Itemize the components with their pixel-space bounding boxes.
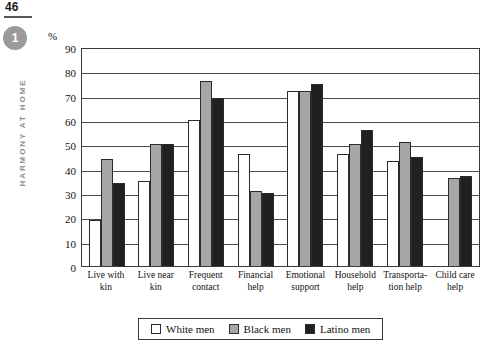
page-number: 46 — [5, 0, 18, 14]
bar — [399, 142, 411, 266]
bar-group-bars — [380, 49, 430, 266]
legend-item: Black men — [229, 323, 291, 335]
plot-area: 0102030405060708090 — [81, 48, 480, 267]
x-axis-tick-label: Live nearkin — [131, 270, 181, 293]
white-swatch — [151, 324, 161, 334]
bar — [138, 181, 150, 266]
bar-group — [281, 49, 331, 266]
bar-group — [231, 49, 281, 266]
bar — [337, 154, 349, 266]
bar-group — [181, 49, 231, 266]
page-rule-divider — [4, 16, 32, 18]
legend-item-label: Latino men — [320, 323, 370, 335]
bar-group — [132, 49, 182, 266]
bar-group-bars — [330, 49, 380, 266]
x-axis-tick-label: Financialhelp — [231, 270, 281, 293]
chapter-number-badge: 1 — [3, 26, 27, 50]
bar-group — [82, 49, 132, 266]
bar — [287, 91, 299, 266]
bar — [150, 144, 162, 266]
bar-group-bars — [181, 49, 231, 266]
bar — [250, 191, 262, 266]
gray-swatch — [229, 324, 239, 334]
x-axis-labels: Live withkinLive nearkinFrequentcontactF… — [81, 270, 480, 293]
bar — [411, 157, 423, 267]
legend-item: White men — [151, 323, 215, 335]
y-axis-tick-label: 0 — [71, 262, 77, 274]
x-axis-tick-label: Householdhelp — [330, 270, 380, 293]
bar — [262, 193, 274, 266]
bar — [162, 144, 174, 266]
bar — [361, 130, 373, 266]
bar — [387, 161, 399, 266]
x-axis-tick-label: Live withkin — [81, 270, 131, 293]
bar — [311, 84, 323, 267]
chart-legend: White menBlack menLatino men — [138, 318, 383, 340]
legend-item-label: White men — [166, 323, 215, 335]
bar — [200, 81, 212, 266]
bar — [238, 154, 250, 266]
chart-page: 46 1 HARMONY AT HOME % 01020304050607080… — [0, 0, 495, 352]
legend-item: Latino men — [305, 323, 370, 335]
bar-group-bars — [82, 49, 132, 266]
x-axis-tick-label: Emotionalsupport — [281, 270, 331, 293]
bar-group — [380, 49, 430, 266]
y-axis-tick-label: 30 — [65, 189, 76, 201]
bar — [89, 220, 101, 266]
bar-group-bars — [281, 49, 331, 266]
bar — [299, 91, 311, 266]
y-axis-tick-label: 40 — [65, 165, 76, 177]
x-axis-tick-label: Transporta-tion help — [380, 270, 430, 293]
bar-group-bars — [231, 49, 281, 266]
y-axis-tick-label: 20 — [65, 213, 76, 225]
bar — [448, 178, 460, 266]
bar-group — [429, 49, 479, 266]
black-swatch — [305, 324, 315, 334]
bar — [188, 120, 200, 266]
bar-group-bars — [132, 49, 182, 266]
bar — [113, 183, 125, 266]
y-axis-tick-label: 50 — [65, 140, 76, 152]
y-axis-tick-label: 10 — [65, 238, 76, 250]
bar-group-bars — [429, 49, 479, 266]
y-axis-tick-label: 70 — [65, 92, 76, 104]
bar — [101, 159, 113, 266]
bar-chart: % 0102030405060708090 Live withkinLive n… — [40, 30, 490, 280]
legend-item-label: Black men — [244, 323, 291, 335]
bar-groups — [82, 49, 479, 266]
bar-group — [330, 49, 380, 266]
y-axis-tick-label: 80 — [65, 67, 76, 79]
y-axis-tick-label: 60 — [65, 116, 76, 128]
y-axis-tick-label: 90 — [65, 43, 76, 55]
running-head-label: HARMONY AT HOME — [18, 73, 27, 193]
x-axis-tick-label: Frequentcontact — [181, 270, 231, 293]
y-axis-unit-label: % — [48, 30, 57, 42]
bar — [460, 176, 472, 266]
x-axis-tick-label: Child carehelp — [430, 270, 480, 293]
bar — [212, 98, 224, 266]
bar — [349, 144, 361, 266]
